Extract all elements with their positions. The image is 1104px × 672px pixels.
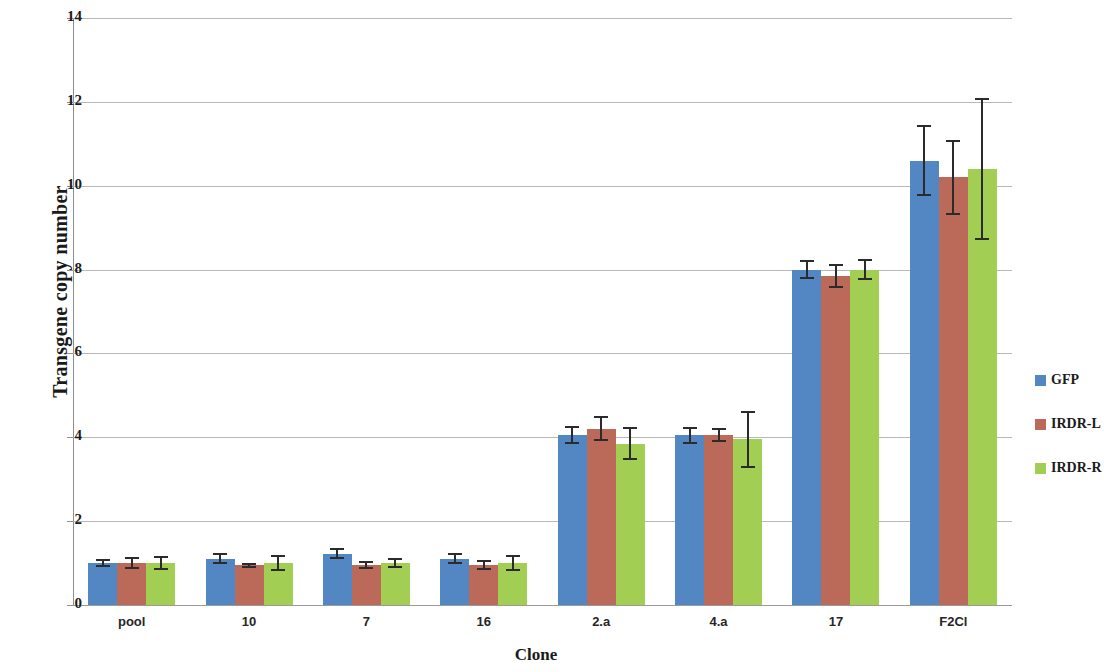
error-bar-cap-bottom [741, 466, 755, 468]
error-bar-cap-top [388, 558, 402, 560]
bar-gfp-2-a [558, 435, 587, 605]
bar-irdr-l-pool [117, 563, 146, 605]
y-tick-label: 8 [42, 260, 82, 277]
bar-irdr-l-4-a [704, 435, 733, 605]
error-bar-cap-bottom [330, 557, 344, 559]
error-bar-cap-bottom [242, 566, 256, 568]
bar-group [206, 18, 293, 605]
error-bar-cap-top [712, 428, 726, 430]
error-bar-cap-bottom [388, 566, 402, 568]
error-bar-cap-top [96, 559, 110, 561]
bar-irdr-r-17 [850, 270, 879, 605]
error-bar-stem [923, 125, 925, 196]
error-bar-cap-top [506, 555, 520, 557]
error-bar-cap-top [917, 125, 931, 127]
error-bar-cap-bottom [359, 567, 373, 569]
error-bar-cap-top [623, 427, 637, 429]
y-tick-label: 4 [42, 427, 82, 444]
error-bar-cap-top [741, 411, 755, 413]
error-bar-cap-bottom [213, 562, 227, 564]
x-tick-label: 2.a [543, 614, 660, 629]
plot-area [73, 18, 1012, 605]
legend-swatch-icon [1035, 463, 1046, 474]
bar-irdr-l-2-a [587, 429, 616, 605]
error-bar-cap-bottom [946, 213, 960, 215]
error-bar-cap-bottom [858, 278, 872, 280]
y-tick-label: 14 [42, 8, 82, 25]
legend-label: GFP [1051, 372, 1079, 388]
bar-group [440, 18, 527, 605]
y-tick-label: 10 [42, 176, 82, 193]
error-bar-cap-bottom [154, 568, 168, 570]
x-tick-label: 10 [190, 614, 307, 629]
bar-irdr-l-10 [235, 565, 264, 605]
bar-irdr-r-7 [381, 563, 410, 605]
error-bar-stem [629, 427, 631, 461]
x-axis-title: Clone [60, 645, 1012, 665]
error-bar-cap-top [154, 556, 168, 558]
bar-gfp-f2cl [910, 161, 939, 605]
bar-gfp-10 [206, 559, 235, 605]
error-bar-cap-bottom [271, 569, 285, 571]
y-tick-label: 12 [42, 92, 82, 109]
legend-swatch-icon [1035, 375, 1046, 386]
error-bar-cap-top [242, 563, 256, 565]
bar-group [558, 18, 645, 605]
bar-gfp-16 [440, 559, 469, 605]
error-bar-cap-bottom [712, 440, 726, 442]
bar-irdr-l-7 [352, 565, 381, 605]
x-tick-label: 7 [308, 614, 425, 629]
bar-chart-figure: Transgene copy number 02468101214 pool10… [0, 0, 1104, 672]
legend-label: IRDR-L [1051, 416, 1101, 432]
error-bar-cap-top [125, 557, 139, 559]
legend: GFPIRDR-LIRDR-R [1035, 358, 1104, 490]
y-tick-label: 0 [42, 595, 82, 612]
error-bar-cap-bottom [448, 562, 462, 564]
error-bar-stem [952, 140, 954, 215]
legend-label: IRDR-R [1051, 460, 1102, 476]
error-bar-cap-bottom [565, 442, 579, 444]
error-bar-cap-top [683, 427, 697, 429]
error-bar-cap-top [359, 561, 373, 563]
error-bar-cap-bottom [96, 565, 110, 567]
bar-group [323, 18, 410, 605]
x-tick-label: 16 [425, 614, 542, 629]
legend-swatch-icon [1035, 419, 1046, 430]
legend-item: IRDR-R [1035, 446, 1104, 490]
x-tick-label: 4.a [660, 614, 777, 629]
error-bar-cap-top [829, 264, 843, 266]
bar-gfp-4-a [675, 435, 704, 605]
bar-irdr-l-f2cl [939, 177, 968, 605]
error-bar-cap-bottom [829, 286, 843, 288]
error-bar-cap-bottom [917, 194, 931, 196]
legend-item: IRDR-L [1035, 402, 1104, 446]
error-bar-cap-bottom [623, 458, 637, 460]
error-bar-cap-top [477, 560, 491, 562]
bar-gfp-7 [323, 554, 352, 605]
error-bar-cap-bottom [683, 442, 697, 444]
error-bar-cap-bottom [506, 569, 520, 571]
gridline [73, 605, 1012, 606]
x-tick-label: pool [73, 614, 190, 629]
error-bar-cap-bottom [477, 568, 491, 570]
bar-group [792, 18, 879, 605]
x-tick-label: 17 [777, 614, 894, 629]
bar-gfp-17 [792, 270, 821, 605]
bar-irdr-l-17 [821, 276, 850, 605]
error-bar-cap-top [858, 259, 872, 261]
error-bar-stem [864, 259, 866, 280]
error-bar-cap-bottom [975, 238, 989, 240]
error-bar-cap-bottom [125, 567, 139, 569]
error-bar-stem [835, 264, 837, 287]
y-tick-label: 6 [42, 343, 82, 360]
error-bar-cap-top [271, 555, 285, 557]
x-tick-label: F2Cl [895, 614, 1012, 629]
legend-item: GFP [1035, 358, 1104, 402]
error-bar-stem [600, 416, 602, 441]
error-bar-cap-top [975, 98, 989, 100]
bar-gfp-pool [88, 563, 117, 605]
bar-irdr-l-16 [469, 565, 498, 605]
error-bar-cap-top [946, 140, 960, 142]
error-bar-cap-top [330, 548, 344, 550]
error-bar-cap-top [594, 416, 608, 418]
